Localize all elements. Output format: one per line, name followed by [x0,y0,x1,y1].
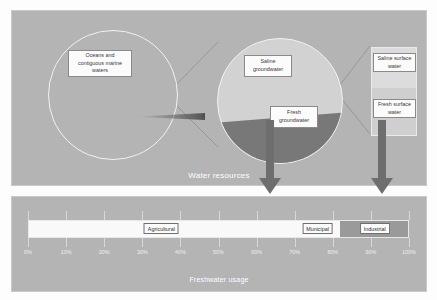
axis-tick-label: 50% [213,249,224,255]
water-resources-caption: Water resources [12,171,426,180]
axis-tick [180,238,181,247]
freshwater-usage-caption: Freshwater usage [12,276,426,283]
axis-tick [409,238,410,247]
axis-tick [219,211,220,220]
axis-tick-label: 100% [402,249,416,255]
axis-tick [66,211,67,220]
axis-tick-label: 30% [137,249,148,255]
axis-tick [142,211,143,220]
axis-tick-label: 60% [251,249,262,255]
freshwater-usage-panel: 0%10%20%30%40%50%60%70%80%90%100% Agricu… [11,196,427,292]
axis-tick [409,211,410,220]
axis-tick-label: 80% [327,249,338,255]
axis-tick [333,238,334,247]
bar-label-agricultural: Agricultural [144,223,179,234]
axis-tick [257,238,258,247]
axis-tick [371,238,372,247]
axis-tick [371,211,372,220]
label-oceans-and-contiguous-marine-waters: Oceans and contiguous marine waters [68,50,132,77]
axis-tick [295,211,296,220]
axis-tick [333,211,334,220]
label-saline-surface-water: Saline surface water [373,53,416,72]
bar-label-municipal: Municipal [302,223,333,234]
axis-tick [180,211,181,220]
axis-tick [104,211,105,220]
figure-root: Oceans and contiguous marine waters Sali… [0,0,437,300]
label-saline-groundwater: Saline groundwater [244,55,292,77]
axis-tick [257,211,258,220]
freshwater-usage-chart: 0%10%20%30%40%50%60%70%80%90%100% Agricu… [12,197,426,291]
axis-tick [104,238,105,247]
axis-tick [142,238,143,247]
water-resources-panel: Oceans and contiguous marine waters Sali… [11,10,427,186]
label-fresh-surface-water: Fresh surface water [373,99,416,118]
arrow-surface-water-to-usage [367,120,399,196]
usage-stacked-bar [28,220,409,238]
ocean-sliver-wedge [135,113,205,120]
axis-tick [295,238,296,247]
axis-tick-label: 20% [99,249,110,255]
bar-label-industrial: Industrial [360,223,390,234]
axis-tick-label: 70% [289,249,300,255]
axis-tick-label: 0% [24,249,32,255]
axis-tick-label: 10% [61,249,72,255]
arrow-groundwater-to-usage [255,120,287,196]
axis-tick [66,238,67,247]
axis-tick [28,238,29,247]
axis-tick [219,238,220,247]
axis-tick [28,211,29,220]
axis-tick-label: 90% [365,249,376,255]
axis-tick-label: 40% [175,249,186,255]
